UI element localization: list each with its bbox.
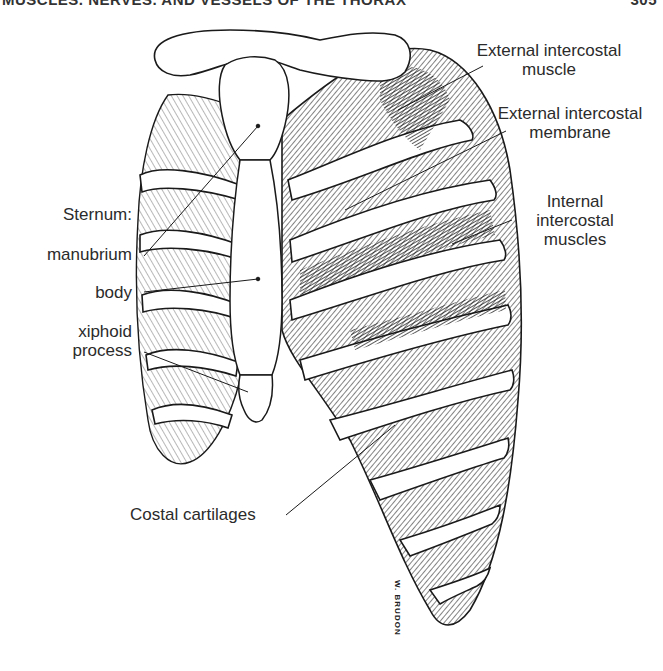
- label-internal-intercostal-muscles: Internal intercostal muscles: [520, 192, 630, 249]
- label-line: intercostal: [520, 211, 630, 230]
- label-line: muscle: [434, 60, 663, 79]
- label-xiphoid-process: xiphoid process: [20, 322, 132, 360]
- label-sternum: Sternum:: [20, 205, 132, 224]
- label-line: External intercostal: [470, 104, 663, 123]
- label-costal-cartilages: Costal cartilages: [130, 505, 256, 524]
- xiphoid-shape: [239, 375, 273, 422]
- label-line: External intercostal: [434, 41, 663, 60]
- label-line: xiphoid: [20, 322, 132, 341]
- label-line: process: [20, 341, 132, 360]
- artist-signature: W. BRUDON: [393, 580, 402, 636]
- label-external-intercostal-muscle: External intercostal muscle: [434, 41, 663, 79]
- label-manubrium: manubrium: [20, 245, 132, 264]
- label-body: body: [20, 283, 132, 302]
- label-line: membrane: [470, 123, 663, 142]
- label-line: Internal: [520, 192, 630, 211]
- sternum-body-shape: [230, 160, 282, 375]
- label-line: muscles: [520, 230, 630, 249]
- label-external-intercostal-membrane: External intercostal membrane: [470, 104, 663, 142]
